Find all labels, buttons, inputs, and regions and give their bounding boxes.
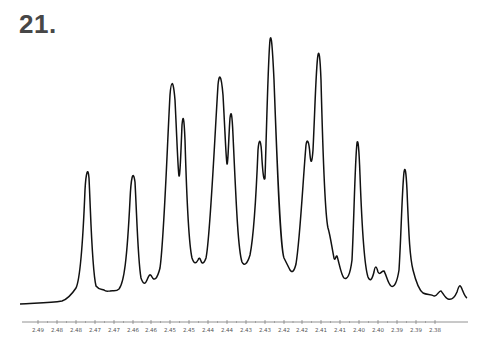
x-tick-label: 2.43 bbox=[240, 327, 253, 333]
x-tick-label: 2.47 bbox=[108, 327, 121, 333]
x-tick-label: 2.38 bbox=[429, 327, 442, 333]
x-tick-label: 2.49 bbox=[32, 327, 45, 333]
spectrum-trace bbox=[20, 38, 467, 304]
x-tick-label: 2.40 bbox=[372, 327, 385, 333]
x-tick-label: 2.48 bbox=[70, 327, 83, 333]
x-tick-label: 2.47 bbox=[89, 327, 102, 333]
x-tick-label: 2.42 bbox=[278, 327, 290, 333]
x-tick-label: 2.45 bbox=[164, 327, 177, 333]
x-tick-label: 2.46 bbox=[145, 327, 158, 333]
x-tick-label: 2.42 bbox=[296, 327, 308, 333]
x-tick-label: 2.41 bbox=[334, 327, 346, 333]
x-tick-label: 2.44 bbox=[221, 327, 234, 333]
x-tick-label: 2.41 bbox=[315, 327, 327, 333]
x-tick-label: 2.43 bbox=[259, 327, 272, 333]
spectrum-plot: 2.492.482.482.472.472.462.462.452.452.44… bbox=[0, 0, 492, 354]
x-tick-label: 2.48 bbox=[51, 327, 64, 333]
x-tick-label: 2.39 bbox=[410, 327, 423, 333]
x-tick-label: 2.39 bbox=[391, 327, 404, 333]
x-tick-label: 2.45 bbox=[183, 327, 196, 333]
x-tick-label: 2.44 bbox=[202, 327, 215, 333]
x-tick-label: 2.40 bbox=[353, 327, 366, 333]
x-tick-label: 2.46 bbox=[127, 327, 140, 333]
